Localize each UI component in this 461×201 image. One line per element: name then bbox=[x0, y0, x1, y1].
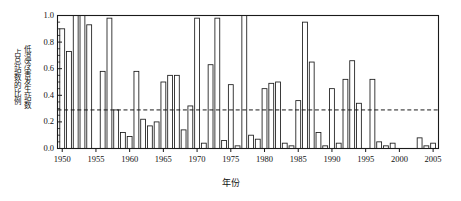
y-axis-label: 占总站数的比例 低温冷害发生站数 bbox=[10, 16, 32, 138]
x-tick-label: 1960 bbox=[114, 154, 146, 164]
x-axis-label: 年份 bbox=[0, 176, 461, 189]
bar bbox=[114, 110, 119, 149]
x-tick-label: 2005 bbox=[417, 154, 449, 164]
bar bbox=[147, 126, 152, 149]
bar bbox=[181, 130, 186, 149]
bar bbox=[255, 139, 260, 148]
bar bbox=[262, 89, 267, 149]
x-tick-label: 1950 bbox=[46, 154, 78, 164]
bar bbox=[120, 133, 125, 149]
bar bbox=[431, 143, 436, 148]
bar bbox=[350, 61, 355, 149]
bar bbox=[80, 16, 85, 149]
bar bbox=[343, 79, 348, 148]
bar bbox=[417, 138, 422, 149]
x-tick-label: 1985 bbox=[282, 154, 314, 164]
bar bbox=[127, 137, 132, 149]
y-axis-label-line-1: 低温冷害发生站数 bbox=[22, 45, 31, 109]
bar bbox=[201, 143, 206, 148]
bar bbox=[188, 106, 193, 149]
bar bbox=[60, 29, 65, 149]
y-tick-label: 0.6 bbox=[30, 63, 54, 73]
x-tick-label: 1995 bbox=[350, 154, 382, 164]
y-axis-label-line-2: 占总站数的比例 bbox=[12, 49, 21, 105]
bar bbox=[228, 85, 233, 149]
x-tick-label: 1980 bbox=[249, 154, 281, 164]
y-tick-label: 0.0 bbox=[30, 143, 54, 153]
chart-figure: 占总站数的比例 低温冷害发生站数 年份 0.00.20.40.60.81.019… bbox=[0, 0, 461, 201]
bar bbox=[249, 135, 254, 148]
bar bbox=[269, 83, 274, 148]
bar bbox=[161, 82, 166, 149]
x-tick-label: 1970 bbox=[181, 154, 213, 164]
bar bbox=[377, 142, 382, 149]
y-tick-label: 0.2 bbox=[30, 116, 54, 126]
bar bbox=[242, 16, 247, 149]
bar bbox=[296, 101, 301, 149]
x-tick-label: 1955 bbox=[80, 154, 112, 164]
bar bbox=[107, 18, 112, 148]
bar bbox=[336, 143, 341, 148]
bar bbox=[276, 82, 281, 149]
bar bbox=[282, 143, 287, 148]
bar bbox=[370, 79, 375, 148]
bar bbox=[141, 119, 146, 148]
bar bbox=[303, 22, 308, 148]
bar bbox=[316, 133, 321, 149]
bar bbox=[174, 75, 179, 148]
bar bbox=[67, 51, 72, 148]
x-tick-label: 1990 bbox=[316, 154, 348, 164]
y-tick-label: 1.0 bbox=[30, 10, 54, 20]
bar bbox=[390, 143, 395, 148]
bar bbox=[154, 122, 159, 149]
bar bbox=[215, 18, 220, 148]
y-tick-label: 0.8 bbox=[30, 37, 54, 47]
bars-group bbox=[60, 16, 436, 149]
bar bbox=[168, 75, 173, 148]
chart-svg bbox=[0, 0, 461, 201]
bar bbox=[309, 62, 314, 148]
x-tick-label: 2000 bbox=[383, 154, 415, 164]
bar bbox=[208, 65, 213, 149]
bar bbox=[87, 25, 92, 149]
bar bbox=[330, 89, 335, 149]
y-tick-label: 0.4 bbox=[30, 90, 54, 100]
bar bbox=[222, 141, 227, 149]
bar bbox=[73, 16, 78, 149]
x-tick-label: 1965 bbox=[147, 154, 179, 164]
bar bbox=[195, 18, 200, 148]
x-tick-label: 1975 bbox=[215, 154, 247, 164]
